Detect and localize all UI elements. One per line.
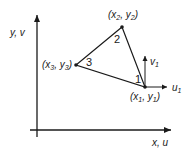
node-2-point <box>120 25 124 29</box>
coordinate-axes <box>30 15 171 137</box>
node-2-coordinates: (x2, y2) <box>108 9 138 21</box>
x-axis-label: x, u <box>151 137 169 148</box>
u1-label: u1 <box>172 82 182 94</box>
node-3-number: 3 <box>86 56 92 68</box>
y-axis-label: y, v <box>9 27 26 38</box>
finite-element-diagram: y, v x, u 2 3 1 (x2, y2) (x3, y3) (x1, y… <box>0 0 193 149</box>
v1-label: v1 <box>150 56 159 68</box>
node-1-coordinates: (x1, y1) <box>130 91 160 103</box>
node-3-point <box>74 63 78 67</box>
node-3-coordinates: (x3, y3) <box>42 59 72 71</box>
node-1-number: 1 <box>135 73 141 85</box>
node-2-number: 2 <box>114 33 120 45</box>
